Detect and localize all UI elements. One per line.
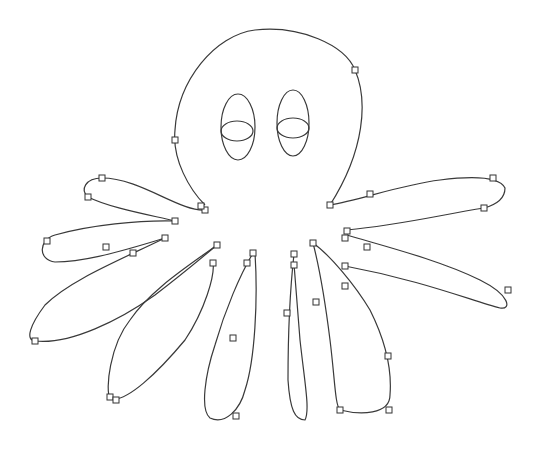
control-point-handle[interactable] [230,335,236,341]
right-eye-outer[interactable] [277,90,309,156]
control-point-handle[interactable] [162,235,168,241]
control-point-handle[interactable] [342,263,348,269]
control-point-handle[interactable] [337,407,343,413]
tentacle-path-7[interactable] [313,243,390,413]
control-point-handle[interactable] [99,175,105,181]
control-point-handle[interactable] [250,250,256,256]
octopus-tentacles[interactable] [30,178,507,420]
control-point-handle[interactable] [313,299,319,305]
control-point-handle[interactable] [291,262,297,268]
control-point-handle[interactable] [481,205,487,211]
control-point-handle[interactable] [344,228,350,234]
control-point-handle[interactable] [198,203,204,209]
octopus-eyes [221,90,309,160]
control-point-handle[interactable] [32,338,38,344]
control-point-handle[interactable] [172,137,178,143]
control-point-handle[interactable] [214,242,220,248]
tentacle-path-3[interactable] [30,238,217,341]
drawing-canvas[interactable] [0,0,538,449]
control-point-handle[interactable] [210,260,216,266]
control-point-handle[interactable] [233,413,239,419]
control-point-handle[interactable] [386,407,392,413]
control-point-handle[interactable] [310,240,316,246]
control-point-handle[interactable] [107,394,113,400]
control-point-handle[interactable] [291,251,297,257]
left-eye-outer[interactable] [221,94,255,160]
control-point-handle[interactable] [385,353,391,359]
control-point-handle[interactable] [103,244,109,250]
control-point-handle[interactable] [352,67,358,73]
control-point-handle[interactable] [44,238,50,244]
right-eye-inner[interactable] [277,118,309,138]
octopus-head-path[interactable] [175,29,362,205]
control-point-handle[interactable] [364,244,370,250]
tentacle-path-4[interactable] [108,245,217,399]
tentacle-path-6[interactable] [288,254,307,420]
control-point-handle[interactable] [367,191,373,197]
tentacle-path-8[interactable] [330,178,505,230]
control-point-handle[interactable] [342,235,348,241]
octopus-drawing[interactable] [0,0,538,449]
control-point-handle[interactable] [85,194,91,200]
left-eye-inner[interactable] [221,121,253,141]
control-point-handle[interactable] [172,218,178,224]
tentacle-path-2[interactable] [42,221,175,262]
control-point-handle[interactable] [244,260,250,266]
control-point-handle[interactable] [505,287,511,293]
control-point-handle[interactable] [327,202,333,208]
control-point-handle[interactable] [130,250,136,256]
control-point-handle[interactable] [284,310,290,316]
control-point-handle[interactable] [342,283,348,289]
control-point-handle[interactable] [490,175,496,181]
control-point-handles[interactable] [32,67,511,419]
tentacle-path-1[interactable] [84,178,205,221]
control-point-handle[interactable] [113,397,119,403]
